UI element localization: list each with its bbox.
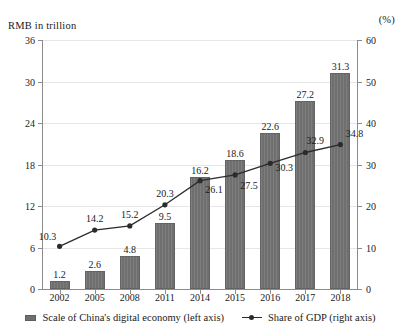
line-value-label: 26.1 xyxy=(205,184,223,195)
right-axis-title: (%) xyxy=(379,14,395,25)
x-axis-tick-label: 2008 xyxy=(120,292,140,303)
chart-container: RMB in trillion (%) 061218243036 0102030… xyxy=(0,0,401,334)
x-axis-tick-label: 2016 xyxy=(260,292,280,303)
line-value-label: 14.2 xyxy=(86,213,104,224)
line-marker xyxy=(162,202,167,207)
line-value-label: 20.3 xyxy=(156,188,174,199)
x-axis-tick-label: 2014 xyxy=(190,292,210,303)
x-axis-tick-label: 2002 xyxy=(50,292,70,303)
left-axis-tick-label: 24 xyxy=(25,118,35,129)
right-axis-tick xyxy=(358,123,362,124)
legend-bar-swatch-icon xyxy=(25,315,36,321)
x-axis-tick-label: 2018 xyxy=(330,292,350,303)
line-path xyxy=(60,145,341,247)
legend-line-label: Share of GDP (right axis) xyxy=(268,312,376,323)
line-marker xyxy=(127,223,132,228)
line-value-label: 34.8 xyxy=(346,128,364,139)
line-value-label: 30.3 xyxy=(275,162,293,173)
right-axis-tick xyxy=(358,248,362,249)
left-axis-title: RMB in trillion xyxy=(8,20,76,31)
line-value-label: 27.5 xyxy=(240,180,258,191)
x-axis-tick-label: 2015 xyxy=(225,292,245,303)
right-axis-tick xyxy=(358,165,362,166)
line-marker xyxy=(338,142,343,147)
right-axis-tick xyxy=(358,40,362,41)
right-axis-tick-label: 10 xyxy=(366,242,376,253)
right-axis-tick-label: 60 xyxy=(366,35,376,46)
left-axis-tick-label: 12 xyxy=(25,201,35,212)
legend-item-line: Share of GDP (right axis) xyxy=(242,312,376,323)
chart-legend: Scale of China's digital economy (left a… xyxy=(0,312,401,323)
right-axis-tick-label: 20 xyxy=(366,201,376,212)
left-axis-tick-label: 18 xyxy=(25,159,35,170)
left-axis-tick-label: 0 xyxy=(30,284,35,295)
left-axis-tick-label: 6 xyxy=(30,242,35,253)
line-marker xyxy=(197,178,202,183)
right-axis-tick-label: 50 xyxy=(366,76,376,87)
x-axis-tick-label: 2011 xyxy=(155,292,175,303)
legend-line-swatch-icon xyxy=(242,314,262,322)
x-axis-tick-label: 2017 xyxy=(295,292,315,303)
line-value-label: 10.3 xyxy=(39,231,57,242)
line-marker xyxy=(57,244,62,249)
legend-bar-label: Scale of China's digital economy (left a… xyxy=(42,312,224,323)
line-marker xyxy=(268,161,273,166)
line-value-label: 32.9 xyxy=(307,135,325,146)
line-marker xyxy=(303,150,308,155)
line-marker xyxy=(92,228,97,233)
line-value-label: 15.2 xyxy=(121,209,139,220)
line-series xyxy=(42,40,358,290)
x-axis-tick-label: 2005 xyxy=(85,292,105,303)
right-axis-tick xyxy=(358,289,362,290)
legend-item-bar: Scale of China's digital economy (left a… xyxy=(25,312,224,323)
left-axis-tick-label: 30 xyxy=(25,76,35,87)
right-axis-tick xyxy=(358,206,362,207)
left-axis-tick-label: 36 xyxy=(25,35,35,46)
right-axis-tick-label: 30 xyxy=(366,159,376,170)
right-axis-tick-label: 0 xyxy=(366,284,371,295)
line-marker xyxy=(233,172,238,177)
right-axis-tick xyxy=(358,82,362,83)
plot-area: 061218243036 0102030405060 1.22.64.89.51… xyxy=(42,40,358,290)
right-axis-tick-label: 40 xyxy=(366,118,376,129)
